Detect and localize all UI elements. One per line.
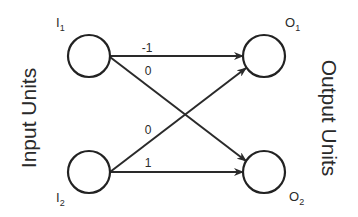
- weight-i2-o1: 0: [145, 123, 152, 137]
- weight-i1-o1: -1: [142, 41, 153, 55]
- label-i1: I1: [56, 15, 65, 33]
- neural-network-diagram: Input Units Output Units -1 0 0 1 I1 I2: [0, 0, 358, 217]
- output-units-title: Output Units: [318, 60, 341, 177]
- weight-i2-o2: 1: [145, 156, 152, 170]
- weight-i1-o2: 0: [145, 64, 152, 78]
- label-i2: I2: [56, 190, 65, 208]
- node-i1: [68, 35, 110, 77]
- node-o1: [243, 35, 285, 77]
- edge-i1-o2: [110, 57, 246, 161]
- node-o2: [243, 151, 285, 193]
- edge-i2-o1: [110, 68, 246, 172]
- node-i2: [68, 151, 110, 193]
- label-o1: O1: [285, 15, 300, 33]
- input-units-title: Input Units: [17, 68, 40, 168]
- label-o2: O2: [289, 189, 304, 207]
